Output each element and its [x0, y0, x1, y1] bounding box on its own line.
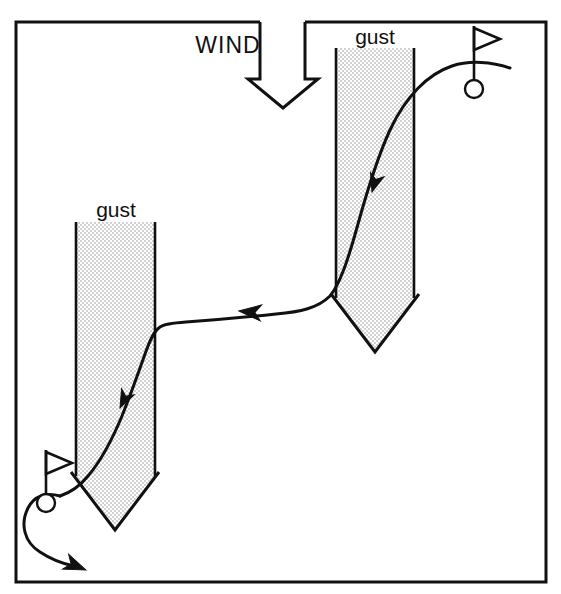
gust-label-left: gust [96, 198, 136, 221]
flag-bottom-left-icon [46, 452, 72, 474]
hole-cup-top-right [465, 80, 483, 98]
gust-column-left-fill [76, 222, 155, 530]
ball-rollout-curve [24, 495, 89, 578]
gust-label-right: gust [355, 25, 395, 48]
rollout-arrowhead [63, 554, 89, 577]
gust-column-right [331, 48, 419, 352]
diagram-canvas: WIND gust gust [0, 0, 561, 594]
wind-label: WIND [195, 32, 260, 58]
gust-column-left [71, 222, 159, 530]
flag-top-right-icon [474, 28, 500, 50]
gust-column-right-fill [336, 48, 414, 352]
hole-bottom-left [37, 450, 72, 512]
wind-gust-golf-diagram: WIND gust gust [0, 0, 561, 594]
hole-cup-bottom-left [37, 494, 55, 512]
